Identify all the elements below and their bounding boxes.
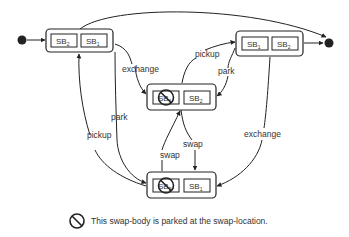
label-swap-c-d: swap (183, 139, 203, 149)
label-pickup-d-a: pickup (87, 130, 112, 140)
prohibited-icon (70, 214, 84, 228)
label-park-b-c: park (218, 66, 235, 76)
label-exchange-b-d: exchange (244, 129, 281, 139)
edge-b-d-exchange (217, 57, 270, 186)
final-node (325, 39, 334, 48)
state-diagram: exchange pickup park park pickup swap sw… (0, 0, 349, 237)
label-exchange-a-c: exchange (122, 64, 159, 74)
state-b: SB1 SB2 (236, 31, 303, 56)
label-park-a-d: park (111, 112, 128, 122)
initial-node (18, 36, 27, 45)
label-pickup-c-b: pickup (195, 49, 220, 59)
legend: This swap-body is parked at the swap-loc… (70, 214, 268, 228)
state-c: SB1 SB2 (147, 84, 216, 110)
state-d: SB2 SB1 (147, 172, 216, 198)
state-a: SB2 SB1 (46, 29, 113, 52)
label-swap-d-c: swap (160, 150, 180, 160)
legend-text: This swap-body is parked at the swap-loc… (91, 216, 268, 226)
edge-d-c-swap (162, 111, 180, 171)
